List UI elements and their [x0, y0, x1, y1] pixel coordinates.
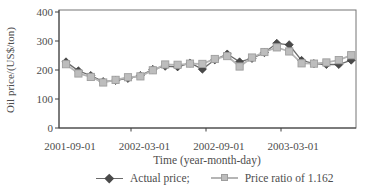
price-ratio-point — [286, 48, 293, 55]
price-ratio-point — [298, 60, 305, 67]
actual-price-line — [66, 43, 351, 81]
x-axis-title: Time (year-month-day) — [153, 154, 261, 167]
price-ratio-point — [137, 73, 144, 80]
price-ratio-point — [174, 61, 181, 68]
plot-border — [59, 10, 356, 128]
square-marker-icon — [211, 173, 238, 184]
chart-legend: Actual price; Price ratio of 1.162 — [96, 172, 334, 184]
price-ratio-point — [62, 61, 69, 68]
price-ratio-point — [162, 61, 169, 68]
y-tick-label: 300 — [37, 35, 54, 47]
x-tick-label: 2003-03-01 — [268, 140, 319, 152]
price-ratio-point — [199, 60, 206, 67]
price-ratio-point — [248, 54, 255, 61]
legend-item-price-ratio: Price ratio of 1.162 — [211, 172, 334, 184]
y-axis-title: Oil price/(US$/ton) — [4, 27, 17, 113]
price-ratio-point — [149, 67, 156, 74]
plot-series — [62, 39, 355, 86]
price-ratio-point — [211, 55, 218, 62]
price-ratio-point — [310, 60, 317, 67]
price-ratio-point — [261, 48, 268, 55]
price-ratio-point — [273, 44, 280, 51]
price-ratio-point — [100, 79, 107, 86]
price-ratio-point — [186, 60, 193, 67]
price-ratio-point — [112, 76, 119, 83]
legend-label-actual-price: Actual price; — [130, 172, 190, 184]
y-tick-label: 400 — [37, 6, 54, 18]
x-tick-label: 2002-03-01 — [119, 140, 170, 152]
price-ratio-point — [236, 63, 243, 70]
price-ratio-point — [87, 73, 94, 80]
legend-item-actual-price: Actual price; — [96, 172, 190, 184]
legend-label-price-ratio: Price ratio of 1.162 — [245, 172, 334, 184]
price-ratio-point — [75, 70, 82, 77]
y-tick-label: 200 — [37, 64, 54, 76]
axis-ticks: 01002003004002001-09-012002-03-012002-09… — [37, 6, 319, 153]
oil-price-chart-figure: 01002003004002001-09-012002-03-012002-09… — [0, 0, 365, 193]
y-tick-label: 0 — [48, 122, 54, 134]
price-ratio-point — [224, 52, 231, 59]
y-tick-label: 100 — [37, 93, 54, 105]
chart-canvas: 01002003004002001-09-012002-03-012002-09… — [0, 0, 365, 170]
price-ratio-point — [335, 57, 342, 64]
price-ratio-point — [323, 59, 330, 66]
x-tick-label: 2002-09-01 — [193, 140, 244, 152]
diamond-marker-icon — [96, 173, 123, 184]
price-ratio-point — [124, 74, 131, 81]
price-ratio-point — [348, 52, 355, 59]
x-tick-label: 2001-09-01 — [44, 140, 95, 152]
